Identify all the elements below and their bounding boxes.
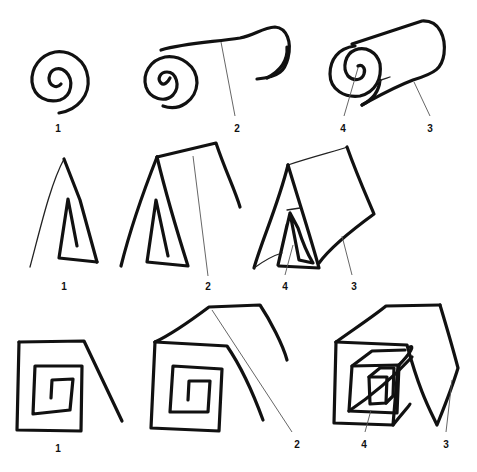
- label-row3-stage3: 3: [443, 440, 449, 450]
- folded-tent-drawing: [121, 143, 240, 266]
- partially-rolled-sheet-drawing: [145, 27, 289, 108]
- box-drawing: [334, 305, 458, 425]
- flat-square-spiral-drawing: [17, 341, 122, 431]
- bent-square-sheet-drawing: [151, 305, 287, 431]
- rolled-cylinder-drawing: [330, 21, 444, 105]
- label-row2-stage3: 3: [351, 282, 357, 292]
- label-row1-stage1: 1: [55, 124, 61, 134]
- label-row3-part4: 4: [361, 440, 367, 450]
- label-row2-stage2: 2: [205, 282, 211, 292]
- label-row1-stage2: 2: [234, 124, 240, 134]
- label-row2-stage1: 1: [61, 282, 67, 292]
- triangular-prism-drawing: [254, 147, 374, 268]
- label-row3-stage2: 2: [294, 440, 300, 450]
- diagram-canvas: [0, 0, 477, 472]
- label-row2-part4: 4: [282, 282, 288, 292]
- flat-triangle-spiral-drawing: [30, 159, 97, 267]
- label-row3-stage1: 1: [55, 444, 61, 454]
- label-row1-part4: 4: [340, 124, 346, 134]
- flat-spiral-drawing: [32, 52, 88, 113]
- label-row1-stage3: 3: [427, 124, 433, 134]
